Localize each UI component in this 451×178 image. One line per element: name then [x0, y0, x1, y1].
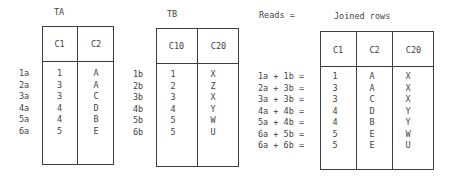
- cell: C: [369, 94, 374, 106]
- cell: 4: [332, 106, 337, 118]
- cell: C: [93, 91, 98, 103]
- cell: 5: [170, 127, 175, 139]
- cell: A: [369, 71, 374, 83]
- cell: Y: [405, 117, 410, 129]
- cell: Z: [210, 81, 215, 93]
- row-label: 4b: [133, 104, 143, 116]
- row-label: 6a: [19, 126, 29, 138]
- reads-label: Reads =: [259, 10, 295, 20]
- cell: B: [93, 114, 98, 126]
- join-equation: 6a + 6b =: [258, 140, 304, 152]
- cell: E: [369, 129, 374, 141]
- cell: 4: [332, 117, 337, 129]
- row-label: 2a: [19, 80, 29, 92]
- joined-column-c20: X X X Y Y W U: [393, 71, 423, 152]
- cell: X: [405, 94, 410, 106]
- cell: 2: [170, 81, 175, 93]
- table-b-column-c20: X Z X Y W U: [198, 69, 228, 138]
- cell: U: [405, 140, 410, 152]
- cell: 5: [332, 129, 337, 141]
- join-equation: 5a + 4b =: [258, 117, 304, 129]
- cell: 3: [57, 91, 62, 103]
- cell: X: [210, 69, 215, 81]
- table-b-title: TB: [167, 9, 177, 19]
- cell: 1: [170, 69, 175, 81]
- cell: Y: [405, 106, 410, 118]
- table-b-header-c10: C10: [156, 41, 197, 51]
- table-a-column-c1: 1 3 3 4 4 5: [42, 68, 77, 137]
- cell: 3: [57, 80, 62, 92]
- cell: D: [369, 106, 374, 118]
- join-equation: 4a + 4b =: [258, 106, 304, 118]
- table-b-column-c10: 1 2 3 4 5 5: [156, 69, 190, 138]
- table-a-title: TA: [54, 7, 64, 17]
- row-label: 2b: [133, 81, 143, 93]
- cell: 5: [332, 140, 337, 152]
- cell: W: [405, 129, 410, 141]
- joined-row-labels: 1a + 1b = 2a + 3b = 3a + 3b = 4a + 4b = …: [258, 71, 304, 152]
- table-a-row-labels: 1a 2a 3a 4a 5a 6a: [19, 68, 29, 137]
- row-label: 1b: [133, 69, 143, 81]
- cell: 3: [170, 92, 175, 104]
- cell: 5: [170, 115, 175, 127]
- joined-title: Joined rows: [334, 11, 390, 21]
- row-label: 5b: [133, 115, 143, 127]
- row-label: 6b: [133, 127, 143, 139]
- join-equation: 2a + 3b =: [258, 83, 304, 95]
- cell: D: [93, 103, 98, 115]
- cell: E: [93, 126, 98, 138]
- cell: 4: [57, 103, 62, 115]
- cell: 4: [57, 114, 62, 126]
- cell: A: [369, 83, 374, 95]
- cell: A: [93, 68, 98, 80]
- joined-header-c2: C2: [357, 45, 392, 55]
- cell: U: [210, 127, 215, 139]
- row-label: 3b: [133, 92, 143, 104]
- cell: B: [369, 117, 374, 129]
- cell: W: [210, 115, 215, 127]
- join-equation: 1a + 1b =: [258, 71, 304, 83]
- cell: A: [93, 80, 98, 92]
- joined-header-c1: C1: [320, 45, 356, 55]
- table-a-column-c2: A A C D B E: [78, 68, 114, 137]
- cell: Y: [210, 104, 215, 116]
- cell: X: [210, 92, 215, 104]
- join-equation: 6a + 5b =: [258, 129, 304, 141]
- cell: 1: [332, 71, 337, 83]
- row-label: 4a: [19, 103, 29, 115]
- cell: 3: [332, 83, 337, 95]
- cell: E: [369, 140, 374, 152]
- cell: X: [405, 71, 410, 83]
- table-a-header-c2: C2: [78, 39, 114, 49]
- joined-header-c20: C20: [393, 45, 434, 55]
- table-b-row-labels: 1b 2b 3b 4b 5b 6b: [133, 69, 143, 138]
- table-a-header-divider: [42, 61, 114, 62]
- row-label: 3a: [19, 91, 29, 103]
- joined-column-c2: A A C D B E E: [357, 71, 387, 152]
- joined-header-divider: [320, 66, 434, 67]
- cell: 3: [332, 94, 337, 106]
- joined-column-c1: 1 3 3 4 4 5 5: [320, 71, 350, 152]
- cell: X: [405, 83, 410, 95]
- table-a-header-c1: C1: [42, 39, 77, 49]
- table-b-header-c20: C20: [198, 41, 239, 51]
- cell: 4: [170, 104, 175, 116]
- join-equation: 3a + 3b =: [258, 94, 304, 106]
- cell: 5: [57, 126, 62, 138]
- row-label: 1a: [19, 68, 29, 80]
- row-label: 5a: [19, 114, 29, 126]
- cell: 1: [57, 68, 62, 80]
